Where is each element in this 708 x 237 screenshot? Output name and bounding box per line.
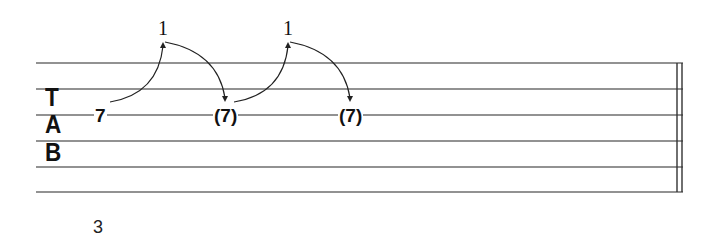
tab-clef-a: A [45,112,61,137]
fret-note-2-ghost: (7) [213,106,238,125]
measure-number: 3 [93,218,103,236]
staff-lines [36,63,683,192]
tab-clef-b: B [45,140,61,165]
arrowhead-up-icon [285,42,291,48]
arrowhead-up-icon [160,42,166,48]
arrowheads [160,42,353,102]
arrowhead-down-icon [222,96,228,102]
arrowhead-down-icon [347,96,353,102]
tab-clef-t: T [45,85,59,110]
bend-amount-2: 1 [283,18,293,38]
bend-up-arrow-1 [110,46,163,102]
final-barline [677,63,682,192]
bend-curves [110,42,350,102]
tab-staff-figure: T A B 7 (7) (7) 1 1 3 [0,0,708,237]
fret-note-3-ghost: (7) [338,106,363,125]
bend-amount-1: 1 [158,18,168,38]
fret-note-1: 7 [94,106,107,125]
bend-up-arrow-2 [234,46,288,102]
